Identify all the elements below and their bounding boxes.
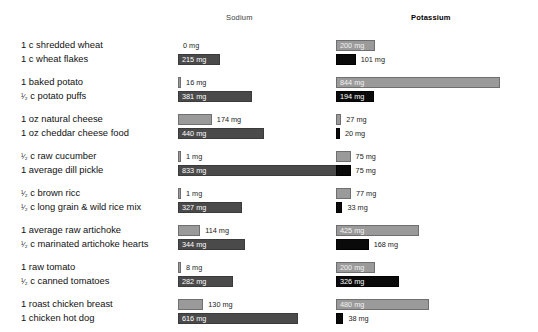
food-label: ¹⁄₂ c marinated artichoke hearts	[21, 237, 148, 251]
chart-row: 1 roast chicken breast130 mg480 mg	[0, 297, 538, 311]
chart-row: ¹⁄₂ c long grain & wild rice mix327 mg33…	[0, 200, 538, 214]
food-label: ¹⁄₂ c brown ricc	[21, 186, 80, 200]
potassium-bar-value: 75 mg	[356, 165, 376, 176]
sodium-bar-value: 282 mg	[182, 276, 206, 287]
potassium-bar-value: 480 mg	[340, 299, 364, 310]
food-label: ¹⁄₂ c raw cucumber	[21, 149, 96, 163]
potassium-bar-value: 77 mg	[356, 188, 376, 199]
sodium-bar-value: 174 mg	[217, 114, 241, 125]
chart-row: ¹⁄₂ c raw cucumber1 mg75 mg	[0, 149, 538, 163]
food-label: 1 average raw artichoke	[21, 223, 121, 237]
fraction-glyph: ¹⁄₂	[21, 92, 28, 101]
potassium-bar-value: 844 mg	[340, 77, 364, 88]
sodium-bar	[178, 151, 181, 162]
food-label: ¹⁄₂ c potato puffs	[21, 89, 86, 103]
chart-row: 1 average raw artichoke114 mg425 mg	[0, 223, 538, 237]
food-label: ¹⁄₂ c long grain & wild rice mix	[21, 200, 141, 214]
chart-row: ¹⁄₂ c potato puffs381 mg194 mg	[0, 89, 538, 103]
potassium-bar-value: 27 mg	[346, 114, 366, 125]
sodium-bar-value: 1 mg	[186, 188, 202, 199]
sodium-bar-value: 1 mg	[186, 151, 202, 162]
chart-row: 1 average dill pickle833 mg75 mg	[0, 163, 538, 177]
chart-row: ¹⁄₂ c marinated artichoke hearts344 mg16…	[0, 237, 538, 251]
chart-row: 1 c shredded wheat0 mg200 mg	[0, 38, 538, 52]
potassium-bar-value: 38 mg	[348, 313, 368, 324]
potassium-bar	[336, 54, 356, 65]
potassium-bar-value: 33 mg	[347, 202, 367, 213]
potassium-bar	[336, 239, 369, 250]
sodium-bar-value: 16 mg	[186, 77, 206, 88]
sodium-bar-value: 114 mg	[205, 225, 229, 236]
sodium-bar-value: 327 mg	[182, 202, 206, 213]
chart-row: 1 oz cheddar cheese food440 mg20 mg	[0, 126, 538, 140]
fraction-glyph: ¹⁄₂	[21, 277, 28, 286]
food-label: 1 chicken hot dog	[21, 311, 95, 325]
potassium-bar	[336, 165, 351, 176]
potassium-bar	[336, 313, 343, 324]
fraction-glyph: ¹⁄₂	[21, 152, 28, 161]
potassium-bar-value: 194 mg	[340, 91, 364, 102]
sodium-bar-value: 215 mg	[182, 54, 206, 65]
fraction-glyph: ¹⁄₂	[21, 203, 28, 212]
food-label: 1 baked potato	[21, 75, 83, 89]
food-label: 1 c wheat flakes	[21, 52, 88, 66]
food-label: 1 roast chicken breast	[21, 297, 113, 311]
food-label: 1 oz cheddar cheese food	[21, 126, 129, 140]
sodium-bar-value: 344 mg	[182, 239, 206, 250]
sodium-bar-value: 616 mg	[182, 313, 206, 324]
sodium-bar-value: 0 mg	[183, 40, 199, 51]
chart-row: 1 baked potato16 mg844 mg	[0, 75, 538, 89]
sodium-bar-value: 381 mg	[182, 91, 206, 102]
potassium-bar	[336, 151, 351, 162]
potassium-bar	[336, 128, 340, 139]
column-header-potassium: Potassium	[411, 13, 451, 22]
potassium-bar-value: 75 mg	[356, 151, 376, 162]
chart-row: ¹⁄₂ c brown ricc1 mg77 mg	[0, 186, 538, 200]
potassium-bar-value: 20 mg	[345, 128, 365, 139]
sodium-bar	[178, 225, 200, 236]
fraction-glyph: ¹⁄₂	[21, 240, 28, 249]
sodium-bar	[178, 77, 181, 88]
food-label: 1 c shredded wheat	[21, 38, 103, 52]
sodium-bar	[178, 299, 203, 310]
potassium-bar	[336, 188, 351, 199]
column-header-sodium: Sodium	[226, 13, 253, 22]
sodium-bar-value: 833 mg	[182, 165, 206, 176]
sodium-bar	[178, 262, 181, 273]
chart-row: 1 raw tomato8 mg200 mg	[0, 260, 538, 274]
food-label: ¹⁄₂ c canned tomatoes	[21, 274, 109, 288]
food-label: 1 raw tomato	[21, 260, 75, 274]
chart-row: 1 oz natural cheese174 mg27 mg	[0, 112, 538, 126]
fraction-glyph: ¹⁄₂	[21, 189, 28, 198]
food-label: 1 average dill pickle	[21, 163, 103, 177]
chart-row: 1 c wheat flakes215 mg101 mg	[0, 52, 538, 66]
chart-row: ¹⁄₂ c canned tomatoes282 mg326 mg	[0, 274, 538, 288]
potassium-bar-value: 101 mg	[361, 54, 385, 65]
chart-row: 1 chicken hot dog616 mg38 mg	[0, 311, 538, 325]
sodium-bar-value: 440 mg	[182, 128, 206, 139]
potassium-bar	[336, 114, 341, 125]
food-label: 1 oz natural cheese	[21, 112, 103, 126]
potassium-bar-value: 200 mg	[340, 40, 364, 51]
potassium-bar-value: 200 mg	[340, 262, 364, 273]
potassium-bar	[336, 202, 342, 213]
potassium-bar-value: 326 mg	[340, 276, 364, 287]
sodium-bar-value: 130 mg	[208, 299, 232, 310]
potassium-bar-value: 425 mg	[340, 225, 364, 236]
sodium-bar-value: 8 mg	[186, 262, 202, 273]
potassium-bar-value: 168 mg	[374, 239, 398, 250]
sodium-bar	[178, 114, 212, 125]
nutrient-comparison-chart: Sodium Potassium 1 c shredded wheat0 mg2…	[0, 0, 538, 332]
sodium-bar	[178, 188, 181, 199]
